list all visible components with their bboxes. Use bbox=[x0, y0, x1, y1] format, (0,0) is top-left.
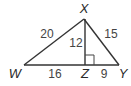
length-label-zy: 9 bbox=[101, 67, 108, 81]
right-angle-marker-icon bbox=[85, 55, 94, 65]
length-label-wx: 20 bbox=[40, 27, 54, 41]
vertex-label-x: X bbox=[79, 1, 90, 16]
vertex-label-w: W bbox=[9, 66, 23, 81]
segment-xy bbox=[84, 19, 119, 65]
length-label-xz: 12 bbox=[69, 36, 83, 50]
vertex-label-z: Z bbox=[80, 66, 90, 81]
length-label-wz: 16 bbox=[48, 67, 62, 81]
triangle-diagram: X W Z Y 20 15 12 16 9 bbox=[0, 0, 131, 86]
vertex-label-y: Y bbox=[119, 66, 129, 81]
length-label-xy: 15 bbox=[104, 27, 118, 41]
